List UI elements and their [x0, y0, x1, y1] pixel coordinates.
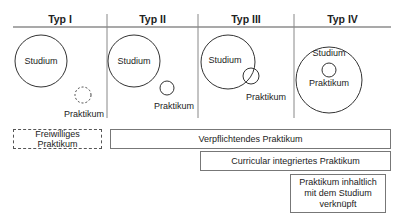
header-typ-1: Typ I [13, 13, 107, 25]
typ2-studium-label: Studium [108, 56, 160, 66]
typ3-praktikum-label: Praktikum [244, 92, 288, 102]
curricular-integriertes-praktikum-box: Curricular integriertes Praktikum [200, 151, 391, 171]
freiwilliges-praktikum-box: Freiwilliges Praktikum [13, 129, 102, 149]
header-typ-4: Typ IV [294, 13, 391, 25]
verpflichtendes-praktikum-box: Verpflichtendes Praktikum [110, 129, 391, 149]
typ4-studium-label: Studium [305, 48, 353, 58]
typ3-studium-label: Studium [200, 55, 250, 65]
typ4-praktikum-label: Praktikum [305, 78, 353, 88]
praktikum-inhaltlich-box: Praktikum inhaltlich mit dem Studium ver… [290, 174, 386, 213]
typ1-studium-label: Studium [15, 56, 67, 66]
header-typ-2: Typ II [107, 13, 198, 25]
typ1-praktikum-label: Praktikum [62, 109, 106, 119]
typ2-praktikum-label: Praktikum [152, 101, 196, 111]
header-typ-3: Typ III [198, 13, 294, 25]
